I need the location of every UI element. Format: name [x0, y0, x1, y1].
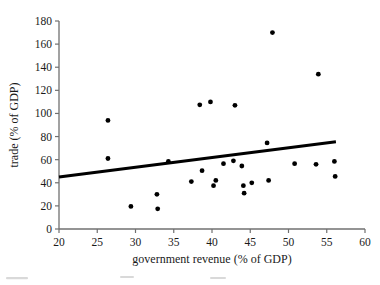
data-point — [211, 183, 216, 188]
y-axis-title: trade (% of GDP) — [7, 83, 21, 168]
data-point — [242, 191, 247, 196]
x-axis-title: government revenue (% of GDP) — [132, 252, 291, 266]
data-point — [106, 156, 111, 161]
y-tick-label: 140 — [35, 61, 53, 73]
y-tick-label: 20 — [41, 200, 53, 212]
trend-line-segment — [59, 142, 336, 177]
scatter-plot-figure: 020406080100120140160180 202530354045505… — [0, 0, 380, 285]
data-point — [249, 180, 254, 185]
data-point — [332, 159, 337, 164]
data-point — [316, 72, 321, 77]
y-tick-label: 80 — [41, 131, 53, 143]
data-point — [106, 118, 111, 123]
y-tick-label: 100 — [35, 107, 53, 119]
data-point — [189, 179, 194, 184]
data-points — [106, 30, 338, 211]
y-tick-label: 180 — [35, 15, 53, 27]
plot-canvas: 020406080100120140160180 202530354045505… — [0, 0, 380, 285]
data-point — [231, 158, 236, 163]
trend-line — [59, 142, 336, 177]
data-point — [292, 161, 297, 166]
x-axis-tick-labels: 202530354045505560 — [53, 236, 371, 248]
data-point — [241, 183, 246, 188]
x-tick-label: 55 — [321, 236, 333, 248]
y-tick-label: 0 — [46, 223, 52, 235]
x-tick-label: 20 — [53, 236, 65, 248]
data-point — [266, 178, 271, 183]
data-point — [239, 164, 244, 169]
data-point — [270, 30, 275, 35]
y-tick-label: 40 — [41, 177, 53, 189]
x-tick-label: 35 — [168, 236, 180, 248]
data-point — [314, 162, 319, 167]
data-point — [208, 99, 213, 104]
data-point — [155, 206, 160, 211]
x-tick-label: 30 — [130, 236, 142, 248]
data-point — [197, 102, 202, 107]
data-point — [333, 174, 338, 179]
y-axis-tick-labels: 020406080100120140160180 — [35, 15, 53, 235]
data-point — [200, 168, 205, 173]
data-point — [221, 161, 226, 166]
x-tick-label: 40 — [206, 236, 218, 248]
data-point — [166, 159, 171, 164]
y-tick-label: 60 — [41, 154, 53, 166]
data-point — [233, 103, 238, 108]
y-tick-label: 120 — [35, 84, 53, 96]
scan-artifacts — [6, 276, 226, 279]
x-tick-label: 50 — [283, 236, 295, 248]
x-tick-label: 45 — [245, 236, 257, 248]
x-tick-label: 25 — [92, 236, 104, 248]
data-point — [265, 141, 270, 146]
x-tick-label: 60 — [359, 236, 371, 248]
data-point — [155, 192, 160, 197]
data-point — [213, 178, 218, 183]
y-tick-label: 160 — [35, 38, 53, 50]
data-point — [129, 204, 134, 209]
